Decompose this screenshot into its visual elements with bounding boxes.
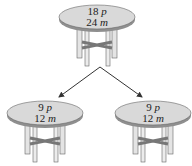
meals-count: 12: [34, 112, 45, 124]
arrow-to-left: [59, 67, 100, 97]
meals-var: m: [100, 16, 108, 28]
arrow-to-right: [100, 67, 142, 97]
table-left: 9 p 12 m: [5, 98, 85, 164]
table-right: 9 p 12 m: [113, 98, 192, 164]
meals-count: 12: [142, 112, 153, 124]
meals-var: m: [156, 112, 164, 124]
meals-count: 24: [86, 16, 97, 28]
table-left-meals: 12 m: [5, 113, 85, 124]
table-right-meals: 12 m: [113, 113, 192, 124]
meals-var: m: [48, 112, 56, 124]
table-top-meals: 24 m: [57, 17, 137, 28]
table-top: 18 p 24 m: [57, 2, 137, 68]
